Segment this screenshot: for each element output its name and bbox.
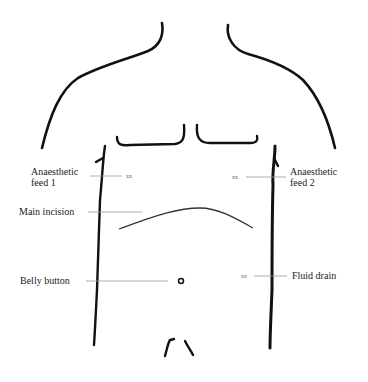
torso-diagram: Anaesthetic feed 1 xx xx Anaesthetic fee…	[0, 0, 368, 382]
right-chest-line	[197, 125, 257, 143]
label-anaesthetic-feed-1: Anaesthetic feed 1	[31, 166, 78, 188]
groin-right-line	[185, 341, 193, 355]
mark-anaesthetic-feed-1: xx	[126, 173, 132, 180]
label-anaesthetic-feed-1-line1: Anaesthetic	[31, 166, 78, 177]
label-anaesthetic-feed-2: Anaesthetic feed 2	[290, 166, 337, 188]
label-anaesthetic-feed-1-line2: feed 1	[31, 177, 78, 188]
right-torso-side	[270, 146, 275, 348]
label-anaesthetic-feed-2-line1: Anaesthetic	[290, 166, 337, 177]
left-chest-line	[117, 125, 184, 145]
label-belly-button: Belly button	[20, 275, 70, 286]
label-fluid-drain: Fluid drain	[292, 270, 336, 281]
right-shoulder-outline	[228, 25, 335, 148]
main-incision-curve	[119, 208, 253, 229]
belly-button-mark	[179, 279, 184, 284]
label-main-incision: Main incision	[19, 206, 74, 217]
left-shoulder-outline	[42, 23, 162, 148]
left-torso-notch	[96, 158, 103, 162]
groin-left-line	[165, 339, 174, 356]
mark-fluid-drain: xx	[241, 273, 247, 280]
mark-anaesthetic-feed-2: xx	[232, 174, 238, 181]
torso-outline-drawing	[0, 0, 368, 382]
label-anaesthetic-feed-2-line2: feed 2	[290, 177, 337, 188]
